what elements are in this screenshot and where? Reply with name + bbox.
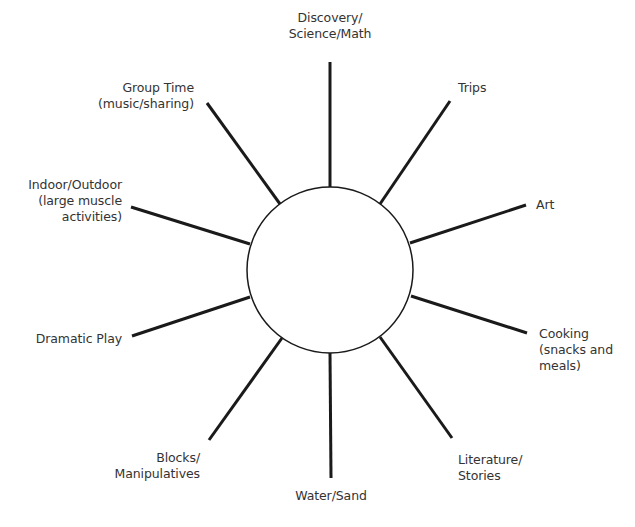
spoke-indoor-outdoor [131,207,250,244]
label-line: Indoor/Outdoor [10,177,122,193]
label-line: (snacks and [539,342,613,358]
spoke-blocks [209,338,282,440]
label-indoor-outdoor: Indoor/Outdoor (large muscle activities) [10,177,122,225]
label-line: activities) [10,209,122,225]
spoke-dramatic-play [132,297,250,336]
label-line: (large muscle [10,193,122,209]
label-line: Literature/ [458,452,522,468]
label-line: Dramatic Play [20,331,122,347]
label-water-sand: Water/Sand [276,488,386,504]
label-cooking: Cooking (snacks and meals) [539,326,613,374]
label-line: (music/sharing) [80,96,194,112]
label-line: Water/Sand [276,488,386,504]
label-line: Cooking [539,326,613,342]
label-blocks-manipulatives: Blocks/ Manipulatives [100,450,200,482]
label-line: Group Time [80,80,194,96]
label-art: Art [536,197,554,213]
label-line: Science/Math [268,26,392,42]
label-literature-stories: Literature/ Stories [458,452,522,484]
label-line: Blocks/ [100,450,200,466]
label-line: Discovery/ [268,10,392,26]
spoke-art [410,205,526,243]
label-discovery-science-math: Discovery/ Science/Math [268,10,392,42]
label-line: Trips [458,80,486,96]
spoke-cooking [411,296,527,333]
label-dramatic-play: Dramatic Play [20,331,122,347]
center-circle [247,187,413,353]
spoke-trips [380,101,450,204]
label-line: meals) [539,358,613,374]
label-group-time: Group Time (music/sharing) [80,80,194,112]
spoke-group-time [207,103,280,204]
spoke-water-sand [330,353,331,478]
spoke-literature [380,337,452,438]
label-line: Stories [458,468,522,484]
label-trips: Trips [458,80,486,96]
label-line: Art [536,197,554,213]
label-line: Manipulatives [100,466,200,482]
